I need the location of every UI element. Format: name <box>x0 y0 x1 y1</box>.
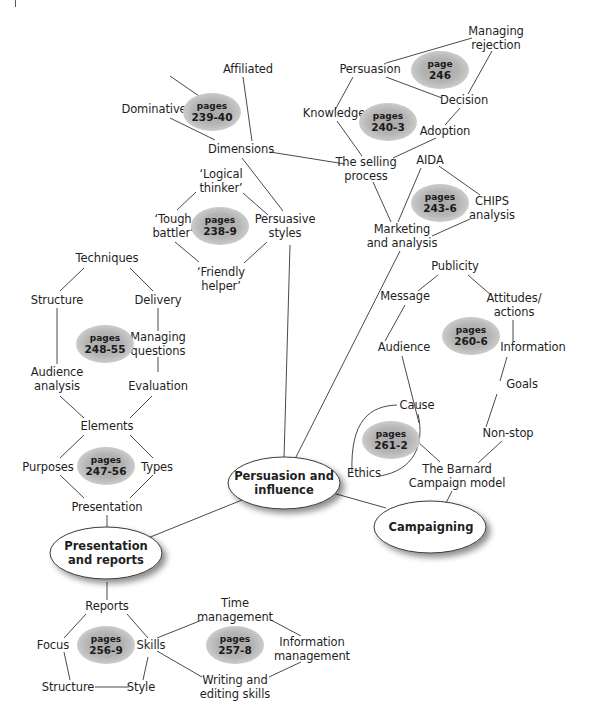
node-reports: Reports <box>85 599 128 613</box>
page-badge: pages 260-6 <box>442 317 500 355</box>
page-badge-range: 247-56 <box>86 465 127 478</box>
node-aida: AIDA <box>416 153 443 167</box>
page-badge-label: pages <box>205 215 235 225</box>
hub-persuasion-and-influence[interactable]: Persuasion and influence <box>234 469 334 497</box>
node-selling-process: The selling process <box>335 155 396 183</box>
page-badge-label: pages <box>425 192 455 202</box>
page-badge-range: 261-2 <box>374 439 408 452</box>
node-purposes: Purposes <box>22 460 73 474</box>
page-badge-range: 238-9 <box>203 225 237 238</box>
node-logical-thinker: ‘Logical thinker’ <box>199 167 242 195</box>
node-knowledge: Knowledge <box>303 106 365 120</box>
node-goals: Goals <box>506 377 538 391</box>
page-badge-range: 260-6 <box>454 335 488 348</box>
page-badge-range: 248-55 <box>85 343 126 356</box>
page-badge-label: pages <box>91 455 121 465</box>
node-presentation: Presentation <box>71 500 142 514</box>
node-marketing-and-analysis: Marketing and analysis <box>367 222 438 250</box>
page-badge-label: page <box>427 59 452 69</box>
node-time-management: Time management <box>197 596 273 624</box>
page-badge: pages 257-8 <box>206 626 264 664</box>
page-badge: pages 238-9 <box>191 207 249 245</box>
page-badge-range: 239-40 <box>192 111 233 124</box>
page-badge-label: pages <box>90 333 120 343</box>
page-badge: pages 248-55 <box>76 325 134 363</box>
page-badge-label: pages <box>456 325 486 335</box>
page-badge-range: 240-3 <box>371 121 405 134</box>
node-chips-analysis: CHIPS analysis <box>469 194 515 222</box>
node-skills: Skills <box>137 638 166 652</box>
node-adoption: Adoption <box>420 124 471 138</box>
node-dimensions: Dimensions <box>208 142 274 156</box>
node-structure-presentation: Structure <box>31 293 84 307</box>
node-managing-rejection: Managing rejection <box>468 24 524 52</box>
page-badge: pages 243-6 <box>411 184 469 222</box>
hub-campaigning[interactable]: Campaigning <box>389 520 474 534</box>
page-badge: pages 247-56 <box>77 447 135 485</box>
node-ethics: Ethics <box>347 466 381 480</box>
node-persuasive-styles: Persuasive styles <box>255 212 316 240</box>
node-style: Style <box>127 680 155 694</box>
node-managing-questions: Managing questions <box>130 330 186 358</box>
node-friendly-helper: ‘Friendly helper’ <box>197 265 245 293</box>
node-attitudes-actions: Attitudes/ actions <box>487 291 542 319</box>
node-types: Types <box>141 460 173 474</box>
node-publicity: Publicity <box>431 259 479 273</box>
node-information: Information <box>500 340 565 354</box>
node-elements: Elements <box>81 419 134 433</box>
mind-map-canvas: Persuasion and influence Presentation an… <box>0 0 590 723</box>
page-badge: pages 256-9 <box>77 626 135 664</box>
node-delivery: Delivery <box>135 293 182 307</box>
node-audience: Audience <box>378 340 431 354</box>
page-badge-label: pages <box>91 634 121 644</box>
node-techniques: Techniques <box>76 251 139 265</box>
page-badge: page 246 <box>411 51 469 89</box>
page-badge-range: 256-9 <box>89 644 123 657</box>
page-badge-label: pages <box>220 634 250 644</box>
node-barnard-campaign-model: The Barnard Campaign model <box>409 462 505 490</box>
page-badge-label: pages <box>373 111 403 121</box>
node-cause: Cause <box>400 398 435 412</box>
page-badge-range: 243-6 <box>423 202 457 215</box>
node-non-stop: Non-stop <box>482 426 533 440</box>
connector-lines <box>0 0 590 723</box>
node-writing-and-editing-skills: Writing and editing skills <box>200 673 270 701</box>
node-persuasion: Persuasion <box>339 62 400 76</box>
node-structure-reports: Structure <box>42 680 95 694</box>
node-tough-battler: ‘Tough battler’ <box>152 212 193 240</box>
page-badge: pages 239-40 <box>183 93 241 131</box>
node-information-management: Information management <box>274 635 350 663</box>
node-evaluation: Evaluation <box>128 379 188 393</box>
node-focus: Focus <box>37 638 69 652</box>
node-decision: Decision <box>440 93 488 107</box>
page-badge: pages 240-3 <box>359 103 417 141</box>
hub-presentation-and-reports[interactable]: Presentation and reports <box>64 539 148 567</box>
page-badge: pages 261-2 <box>362 421 420 459</box>
node-affiliated: Affiliated <box>223 62 273 76</box>
node-message: Message <box>380 289 430 303</box>
node-audience-analysis: Audience analysis <box>31 365 84 393</box>
page-badge-range: 257-8 <box>218 644 252 657</box>
page-badge-range: 246 <box>429 69 451 82</box>
node-dominative: Dominative <box>121 102 186 116</box>
page-badge-label: pages <box>376 429 406 439</box>
page-badge-label: pages <box>197 101 227 111</box>
